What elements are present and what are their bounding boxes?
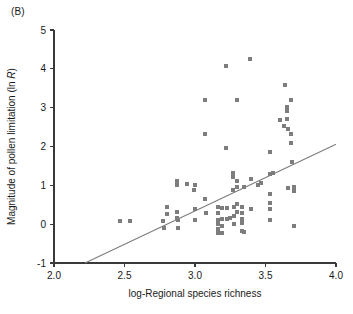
data-point	[271, 171, 275, 175]
data-point	[193, 218, 197, 222]
data-point	[268, 192, 272, 196]
data-point	[235, 98, 239, 102]
data-point	[128, 219, 132, 223]
data-point	[203, 197, 207, 201]
data-point	[220, 206, 224, 210]
data-point	[282, 124, 286, 128]
data-point	[292, 224, 296, 228]
data-point	[165, 205, 169, 209]
data-point	[232, 214, 236, 218]
y-tick-label: 5	[40, 25, 46, 36]
data-point	[162, 226, 166, 230]
data-point	[290, 160, 294, 164]
data-point	[292, 189, 296, 193]
data-point	[165, 212, 169, 216]
data-point	[278, 118, 282, 122]
data-point	[176, 226, 180, 230]
data-point	[289, 98, 293, 102]
y-tick-label: 1	[40, 180, 46, 191]
data-point	[268, 201, 272, 205]
x-tick-label: 2.0	[47, 270, 61, 281]
data-point	[216, 231, 220, 235]
y-tick-label: 2	[40, 141, 46, 152]
data-point	[249, 177, 253, 181]
data-point	[193, 183, 197, 187]
data-point	[216, 227, 220, 231]
y-tick-label: 3	[40, 102, 46, 113]
data-point	[235, 179, 239, 183]
x-tick-label: 4.0	[329, 270, 343, 281]
data-point	[248, 57, 252, 61]
data-point	[118, 219, 122, 223]
data-point	[268, 218, 272, 222]
x-tick-label: 2.5	[118, 270, 132, 281]
data-point	[242, 230, 246, 234]
data-point	[220, 224, 224, 228]
data-point	[283, 83, 287, 87]
data-point	[286, 127, 290, 131]
x-tick-label: 3.5	[259, 270, 273, 281]
data-point	[286, 186, 290, 190]
data-point	[235, 210, 239, 214]
data-point	[242, 185, 246, 189]
data-point	[204, 211, 208, 215]
data-point	[216, 205, 220, 209]
data-point	[175, 210, 179, 214]
data-point	[175, 183, 179, 187]
regression-fit-line	[85, 144, 336, 263]
data-point	[235, 202, 239, 206]
scatter-plot-svg: -10123452.02.53.03.54.0 log-Regional spe…	[0, 0, 353, 314]
data-point	[203, 132, 207, 136]
data-point	[185, 182, 189, 186]
data-points-group	[118, 57, 295, 235]
y-tick-label: 0	[40, 219, 46, 230]
y-axis-title: Magnitude of pollen limitation (ln R)	[6, 68, 17, 225]
x-axis-title: log-Regional species richness	[129, 288, 262, 299]
ticks-group	[50, 30, 336, 267]
data-point	[268, 207, 272, 211]
data-point	[216, 211, 220, 215]
data-point	[176, 218, 180, 222]
data-point	[224, 64, 228, 68]
data-point	[220, 231, 224, 235]
data-point	[220, 217, 224, 221]
data-point	[292, 185, 296, 189]
data-point	[161, 219, 165, 223]
data-point	[192, 188, 196, 192]
data-point	[231, 175, 235, 179]
data-point	[235, 185, 239, 189]
data-point	[249, 207, 253, 211]
regression-line	[85, 144, 336, 263]
data-point	[224, 146, 228, 150]
data-point	[285, 117, 289, 121]
axes-group	[54, 30, 336, 263]
data-point	[228, 216, 232, 220]
figure-panel-b: (B) -10123452.02.53.03.54.0 log-Regional…	[0, 0, 353, 314]
tick-labels-group: -10123452.02.53.03.54.0	[37, 25, 343, 282]
data-point	[203, 98, 207, 102]
data-point	[285, 109, 289, 113]
data-point	[225, 206, 229, 210]
data-point	[193, 207, 197, 211]
data-point	[259, 181, 263, 185]
data-point	[240, 205, 244, 209]
data-point	[216, 218, 220, 222]
data-point	[268, 150, 272, 154]
y-tick-label: 4	[40, 63, 46, 74]
data-point	[216, 222, 220, 226]
data-point	[285, 105, 289, 109]
y-tick-label: -1	[37, 258, 46, 269]
data-point	[289, 132, 293, 136]
x-tick-label: 3.0	[188, 270, 202, 281]
data-point	[289, 141, 293, 145]
data-point	[240, 211, 244, 215]
data-point	[240, 221, 244, 225]
data-point	[240, 217, 244, 221]
data-point	[231, 171, 235, 175]
data-point	[231, 188, 235, 192]
data-point	[232, 222, 236, 226]
